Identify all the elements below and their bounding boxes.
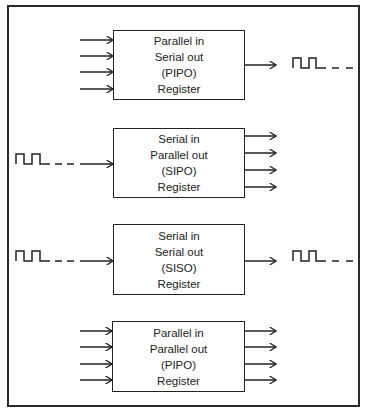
block-label-line: Serial out [155, 49, 204, 65]
block-label-line: Parallel in [153, 325, 204, 341]
block-label-line: (SISO) [161, 260, 196, 276]
siso-input-pulse-train [16, 251, 74, 261]
block-label-line: Serial in [158, 228, 200, 244]
block-label-line: (SIPO) [161, 163, 196, 179]
piso-register-block: Parallel in Serial out (PIPO) Register [113, 30, 245, 100]
siso-register-block: Serial in Serial out (SISO) Register [113, 224, 245, 295]
block-label-line: Register [158, 81, 201, 97]
piso-parallel-inputs [80, 40, 113, 89]
block-label-line: Serial out [155, 244, 204, 260]
block-label-line: Parallel in [154, 33, 205, 49]
block-label-line: Parallel out [150, 147, 208, 163]
pipo-parallel-outputs [245, 331, 276, 380]
block-label-line: Register [158, 276, 201, 292]
sipo-register-block: Serial in Parallel out (SIPO) Register [113, 128, 245, 198]
sipo-input-pulse-train [16, 154, 74, 164]
siso-output-pulse-train [293, 251, 353, 261]
sipo-parallel-outputs [245, 136, 276, 187]
block-label-line: (PIPO) [161, 357, 196, 373]
block-label-line: (PIPO) [161, 65, 196, 81]
block-label-line: Serial in [158, 131, 200, 147]
block-label-line: Parallel out [150, 341, 208, 357]
pipo-register-block: Parallel in Parallel out (PIPO) Register [112, 321, 245, 392]
piso-output-pulse-train [293, 58, 353, 68]
pipo-parallel-inputs [80, 331, 112, 380]
block-label-line: Register [157, 373, 200, 389]
block-label-line: Register [158, 179, 201, 195]
